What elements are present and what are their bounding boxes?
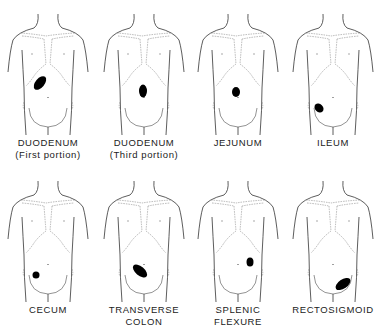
- torso-outline-icon: [190, 167, 286, 303]
- lesion-marker: [131, 262, 150, 280]
- torso-outline-icon: [0, 0, 96, 136]
- lesion-marker: [139, 85, 147, 98]
- panel-sublabel: FLEXURE: [190, 316, 286, 328]
- panel-ileum: ILEUM: [285, 0, 381, 168]
- panel-sublabel: (First portion): [0, 149, 96, 161]
- panel-label: JEJUNUM: [190, 137, 286, 149]
- panel-label: RECTOSIGMOID: [285, 304, 381, 316]
- lesion-marker: [247, 258, 254, 267]
- lesion-marker: [232, 87, 240, 97]
- panel-duodenum-first: DUODENUM(First portion): [0, 0, 96, 168]
- torso-outline-icon: [285, 167, 381, 303]
- panel-splenic-flexure: SPLENICFLEXURE: [190, 167, 286, 335]
- torso-outline-icon: [96, 0, 192, 136]
- lesion-marker: [33, 272, 40, 279]
- panel-label: DUODENUM: [96, 137, 192, 149]
- torso-outline-icon: [96, 167, 192, 303]
- torso-outline-icon: [190, 0, 286, 136]
- panel-transverse-colon: TRANSVERSECOLON: [96, 167, 192, 335]
- torso-outline-icon: [285, 0, 381, 136]
- panel-label: DUODENUM: [0, 137, 96, 149]
- panel-cecum: CECUM: [0, 167, 96, 335]
- lesion-marker: [31, 74, 48, 92]
- panel-sublabel: (Third portion): [96, 149, 192, 161]
- panel-label: ILEUM: [285, 137, 381, 149]
- panel-sublabel: COLON: [96, 316, 192, 328]
- torso-outline-icon: [0, 167, 96, 303]
- panel-label: CECUM: [0, 304, 96, 316]
- panel-label: SPLENIC: [190, 304, 286, 316]
- panel-rectosigmoid: RECTOSIGMOID: [285, 167, 381, 335]
- panel-label: TRANSVERSE: [96, 304, 192, 316]
- panel-jejunum: JEJUNUM: [190, 0, 286, 168]
- panel-duodenum-third: DUODENUM(Third portion): [96, 0, 192, 168]
